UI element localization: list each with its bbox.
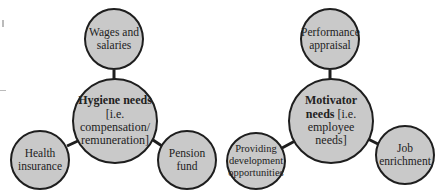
node-health-insurance: Health insurance [10,130,70,190]
edge-artifact [0,90,6,91]
node-wages-salaries: Wages and salaries [84,8,144,70]
hub-hygiene-needs: Hygiene needs [i.e. compensation/ remune… [72,78,158,164]
node-pension-fund: Pension fund [157,130,217,190]
node-performance-appraisal: Performance appraisal [300,8,360,70]
node-job-enrichment: Job enrichment [375,125,435,185]
hub-subtitle: [i.e. compensation/ remuneration] [75,108,155,148]
node-development-opportunities: Providing development opportunities [226,132,286,190]
edge-artifact [2,20,4,27]
hub-motivator-needs: Motivator needs [i.e. employee needs] [288,78,374,164]
hub-title: Hygiene needs [78,93,152,107]
